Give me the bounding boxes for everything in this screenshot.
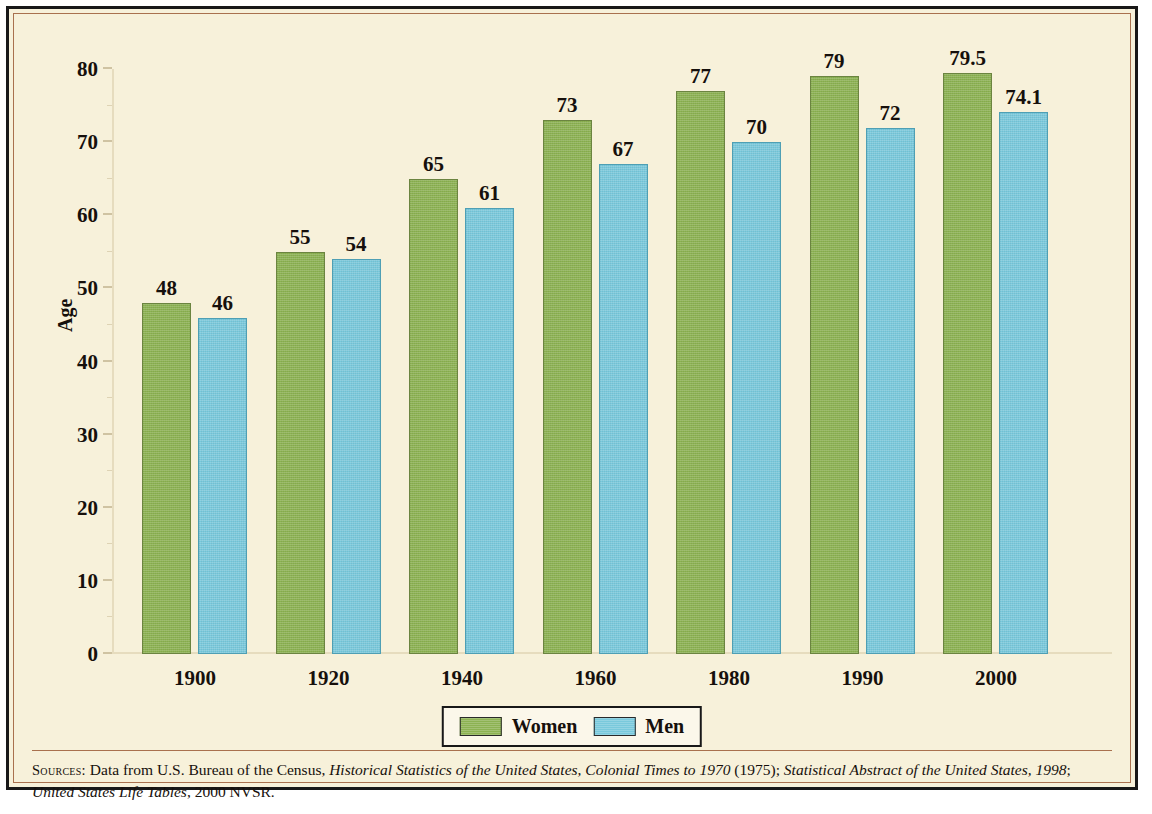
chart-legend: Women Men xyxy=(442,706,702,747)
y-tick-20 xyxy=(103,506,112,508)
y-tick-label-60: 60 xyxy=(38,205,98,226)
bar-value-label-women-2000: 79.5 xyxy=(949,48,986,69)
x-tick-label-1920: 1920 xyxy=(308,666,350,691)
bar-group-1900: 48461900 xyxy=(142,54,248,654)
y-tick-0 xyxy=(103,652,112,654)
figure-frame: Age 01020304050607080 484619005554192065… xyxy=(6,6,1138,790)
legend-swatch-women-icon xyxy=(460,717,502,736)
bar-group-1920: 55541920 xyxy=(276,54,382,654)
y-tick-minor xyxy=(107,105,112,106)
bar-value-label-men-1980: 70 xyxy=(746,117,767,138)
y-tick-10 xyxy=(103,579,112,581)
y-tick-30 xyxy=(103,433,112,435)
plot-area: 01020304050607080 4846190055541920656119… xyxy=(112,34,1112,659)
bar-men-1980[interactable]: 70 xyxy=(732,142,781,654)
y-tick-label-70: 70 xyxy=(38,132,98,153)
y-tick-label-40: 40 xyxy=(38,352,98,373)
x-tick-label-2000: 2000 xyxy=(975,666,1017,691)
legend-swatch-men-icon xyxy=(593,717,635,736)
bar-value-label-women-1920: 55 xyxy=(290,227,311,248)
x-tick-label-1940: 1940 xyxy=(441,666,483,691)
bar-men-1990[interactable]: 72 xyxy=(866,128,915,655)
y-tick-80 xyxy=(103,67,112,69)
x-tick-label-1990: 1990 xyxy=(842,666,884,691)
y-tick-minor xyxy=(107,470,112,471)
bar-men-1960[interactable]: 67 xyxy=(599,164,648,654)
y-tick-label-10: 10 xyxy=(38,571,98,592)
y-tick-label-20: 20 xyxy=(38,498,98,519)
bar-women-1920[interactable]: 55 xyxy=(276,252,325,654)
sources-label: Sources: xyxy=(32,762,86,778)
y-tick-40 xyxy=(103,360,112,362)
bar-value-label-women-1900: 48 xyxy=(156,278,177,299)
y-tick-minor xyxy=(107,543,112,544)
x-tick-label-1980: 1980 xyxy=(708,666,750,691)
sources-text-suffix-2: , 2000 NVSR. xyxy=(187,783,275,800)
bar-women-1900[interactable]: 48 xyxy=(142,303,191,654)
y-tick-label-50: 50 xyxy=(38,278,98,299)
y-tick-label-80: 80 xyxy=(38,59,98,80)
y-tick-minor xyxy=(107,324,112,325)
bar-group-1940: 65611940 xyxy=(409,54,515,654)
y-tick-minor xyxy=(107,178,112,179)
bar-men-1900[interactable]: 46 xyxy=(198,318,247,654)
bar-value-label-men-1900: 46 xyxy=(212,293,233,314)
y-axis-title: Age xyxy=(54,299,77,332)
y-axis-line xyxy=(112,69,114,654)
bar-group-1990: 79721990 xyxy=(810,54,916,654)
x-tick-label-1900: 1900 xyxy=(174,666,216,691)
bar-group-2000: 79.574.12000 xyxy=(943,54,1049,654)
bar-women-2000[interactable]: 79.5 xyxy=(943,73,992,654)
bar-men-1940[interactable]: 61 xyxy=(465,208,514,654)
legend-entry-men[interactable]: Men xyxy=(593,715,684,738)
y-tick-60 xyxy=(103,213,112,215)
bar-value-label-men-1960: 67 xyxy=(613,139,634,160)
bar-group-1960: 73671960 xyxy=(543,54,649,654)
y-tick-label-0: 0 xyxy=(38,644,98,665)
sources-title-3: United States Life Tables xyxy=(32,783,187,800)
y-tick-70 xyxy=(103,140,112,142)
y-tick-minor xyxy=(107,251,112,252)
y-tick-minor xyxy=(107,397,112,398)
bar-women-1960[interactable]: 73 xyxy=(543,120,592,654)
bar-women-1990[interactable]: 79 xyxy=(810,76,859,654)
bar-men-2000[interactable]: 74.1 xyxy=(999,112,1048,654)
sources-text-suffix: ; xyxy=(1066,761,1070,778)
bar-value-label-women-1940: 65 xyxy=(423,154,444,175)
sources-title-2: Statistical Abstract of the United State… xyxy=(784,761,1067,778)
legend-label-men: Men xyxy=(645,715,684,738)
bar-value-label-men-1920: 54 xyxy=(346,234,367,255)
bar-value-label-women-1980: 77 xyxy=(690,66,711,87)
y-tick-label-30: 30 xyxy=(38,425,98,446)
bar-women-1980[interactable]: 77 xyxy=(676,91,725,654)
y-tick-minor xyxy=(107,616,112,617)
bar-men-1920[interactable]: 54 xyxy=(332,259,381,654)
bar-value-label-women-1960: 73 xyxy=(557,95,578,116)
chart-area: Age 01020304050607080 484619005554192065… xyxy=(14,14,1130,714)
sources-title-1: Historical Statistics of the United Stat… xyxy=(329,761,730,778)
bar-value-label-men-2000: 74.1 xyxy=(1005,87,1042,108)
y-tick-50 xyxy=(103,286,112,288)
legend-entry-women[interactable]: Women xyxy=(460,715,578,738)
x-tick-label-1960: 1960 xyxy=(575,666,617,691)
bar-value-label-men-1990: 72 xyxy=(880,103,901,124)
figure-inner-border: Age 01020304050607080 484619005554192065… xyxy=(13,13,1131,783)
bar-women-1940[interactable]: 65 xyxy=(409,179,458,654)
legend-label-women: Women xyxy=(512,715,578,738)
sources-note: Sources: Data from U.S. Bureau of the Ce… xyxy=(32,750,1112,804)
bar-group-1980: 77701980 xyxy=(676,54,782,654)
sources-text-prefix: Data from U.S. Bureau of the Census, xyxy=(90,761,329,778)
bar-value-label-men-1940: 61 xyxy=(479,183,500,204)
bar-value-label-women-1990: 79 xyxy=(824,51,845,72)
sources-text-mid: (1975); xyxy=(730,761,783,778)
